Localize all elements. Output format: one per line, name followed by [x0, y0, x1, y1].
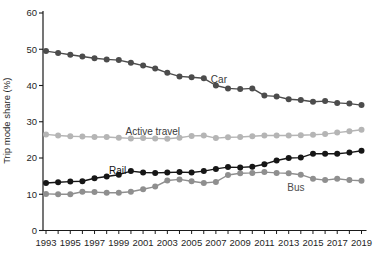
series-rail-marker — [310, 151, 316, 157]
x-tick-label: 2009 — [230, 237, 251, 248]
series-rail-marker — [152, 170, 158, 176]
series-car-marker — [310, 99, 316, 105]
series-car-marker — [140, 63, 146, 69]
series-active-travel-marker — [298, 132, 304, 138]
series-rail-marker — [201, 168, 207, 174]
x-tick-label: 1995 — [60, 237, 81, 248]
y-tick-label: 60 — [26, 7, 37, 18]
annotation-bus: Bus — [287, 182, 304, 193]
series-active-travel-marker — [104, 134, 110, 140]
series-car-marker — [237, 86, 243, 92]
series-car-marker — [43, 48, 49, 54]
series-active-travel-marker — [92, 134, 98, 140]
series-rail-marker — [79, 178, 85, 184]
x-tick-label: 2011 — [254, 237, 274, 248]
series-rail-marker — [286, 155, 292, 161]
annotation-active-travel: Active travel — [126, 126, 180, 137]
series-car-marker — [92, 55, 98, 61]
series-active-travel-marker — [359, 127, 365, 133]
series-rail-marker — [298, 155, 304, 161]
series-car-marker — [274, 93, 280, 99]
x-tick-label: 2005 — [181, 237, 202, 248]
series-car-marker — [249, 85, 255, 91]
series-rail-marker — [274, 158, 280, 164]
series-rail-marker — [249, 164, 255, 170]
series-bus-marker — [189, 178, 195, 184]
series-car-marker — [164, 70, 170, 76]
series-rail-marker — [322, 151, 328, 157]
series-bus-marker — [237, 170, 243, 176]
y-tick-label: 40 — [26, 80, 37, 91]
series-car-marker — [116, 57, 122, 63]
series-car-marker — [261, 93, 267, 99]
x-tick-label: 2015 — [302, 237, 323, 248]
series-active-travel-marker — [225, 134, 231, 140]
series-bus-marker — [177, 176, 183, 182]
annotation-rail: Rail — [109, 165, 126, 176]
series-rail-marker — [225, 164, 231, 170]
series-active-travel-marker — [43, 131, 49, 137]
series-car-marker — [201, 75, 207, 81]
series-car-marker — [346, 101, 352, 107]
series-bus-marker — [334, 176, 340, 182]
series-bus-marker — [104, 190, 110, 196]
series-car-marker — [189, 74, 195, 80]
series-rail-marker — [128, 168, 134, 174]
series-bus-marker — [140, 186, 146, 192]
series-rail-marker — [359, 148, 365, 154]
series-bus-marker — [201, 180, 207, 186]
series-rail-marker — [261, 161, 267, 167]
series-car-marker — [55, 50, 61, 56]
x-tick-label: 2019 — [351, 237, 372, 248]
series-bus-marker — [43, 191, 49, 197]
series-bus-marker — [286, 170, 292, 176]
series-active-travel-marker — [189, 133, 195, 139]
x-tick-label: 2007 — [205, 237, 226, 248]
series-active-travel-marker — [249, 133, 255, 139]
series-active-travel-marker — [346, 128, 352, 134]
series-bus-marker — [225, 172, 231, 178]
series-active-travel-marker — [286, 133, 292, 139]
series-bus-marker — [359, 178, 365, 184]
series-rail-marker — [43, 180, 49, 186]
series-rail-marker — [67, 179, 73, 185]
series-bus-marker — [79, 189, 85, 195]
x-tick-label: 2001 — [133, 237, 154, 248]
x-tick-label: 2017 — [327, 237, 348, 248]
series-active-travel-marker — [79, 134, 85, 140]
series-rail-marker — [140, 170, 146, 176]
series-active-travel-marker — [310, 132, 316, 138]
series-car-marker — [177, 73, 183, 79]
series-bus-marker — [55, 191, 61, 197]
series-bus-marker — [274, 170, 280, 176]
series-bus-marker — [322, 177, 328, 183]
series-active-travel-marker — [164, 136, 170, 142]
series-rail-marker — [177, 169, 183, 175]
series-car-marker — [152, 66, 158, 72]
series-car-marker — [128, 60, 134, 66]
series-active-travel-marker — [274, 133, 280, 139]
series-bus-marker — [128, 189, 134, 195]
series-bus-marker — [298, 172, 304, 178]
x-tick-label: 2003 — [157, 237, 178, 248]
x-tick-label: 2013 — [278, 237, 299, 248]
series-car-marker — [322, 98, 328, 104]
y-tick-label: 10 — [26, 189, 37, 200]
series-bus-marker — [92, 189, 98, 195]
trip-mode-share-chart: 0102030405060199319951997199920012003200… — [0, 0, 378, 263]
y-tick-label: 30 — [26, 116, 37, 127]
series-bus-marker — [164, 178, 170, 184]
series-car-marker — [225, 85, 231, 91]
series-active-travel-marker — [116, 135, 122, 141]
y-tick-label: 0 — [32, 225, 37, 236]
series-active-travel-marker — [201, 133, 207, 139]
annotation-car: Car — [211, 74, 228, 85]
y-axis-title: Trip mode share (%) — [1, 78, 12, 164]
y-tick-label: 20 — [26, 152, 37, 163]
series-active-travel-marker — [67, 133, 73, 139]
x-tick-label: 1999 — [108, 237, 129, 248]
series-active-travel-marker — [322, 131, 328, 137]
series-bus-marker — [249, 170, 255, 176]
series-bus-marker — [261, 169, 267, 175]
series-rail-marker — [55, 179, 61, 185]
